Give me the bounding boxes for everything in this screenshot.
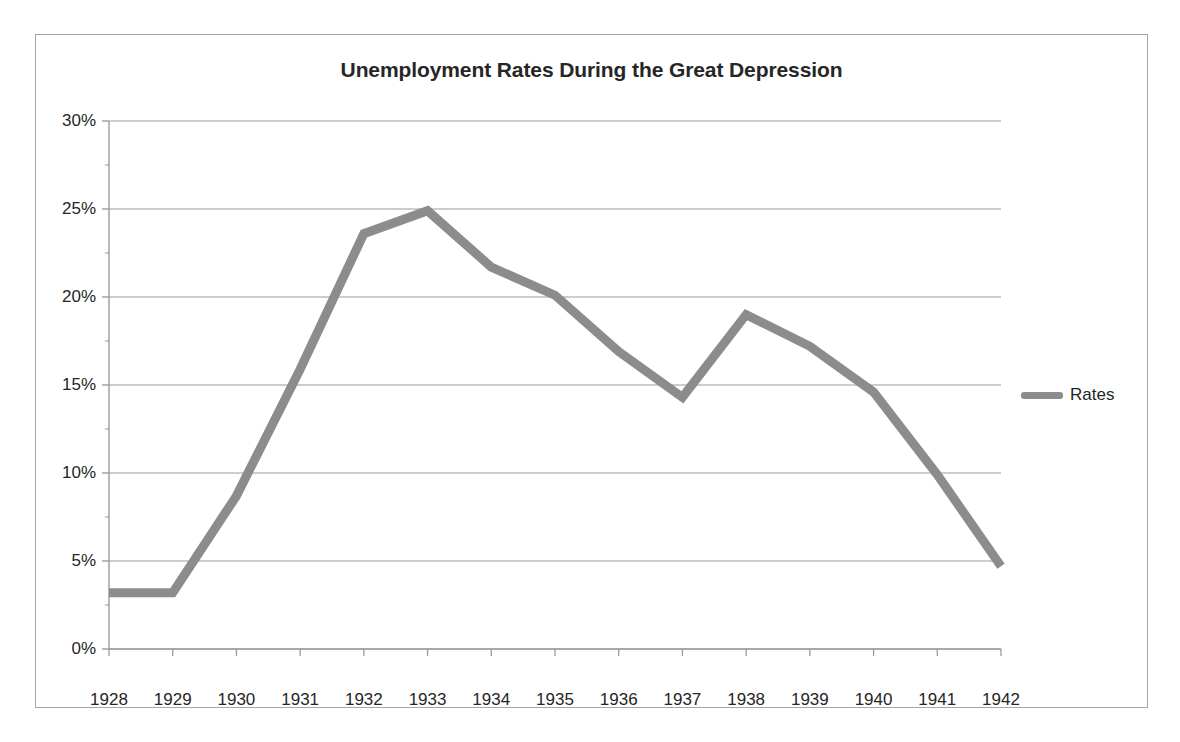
y-tick-label: 15% [62, 375, 96, 395]
x-tick-label: 1935 [536, 690, 574, 710]
series-line-rates [109, 211, 1001, 593]
data-series-group [109, 211, 1001, 593]
x-tick-label: 1939 [791, 690, 829, 710]
chart-title: Unemployment Rates During the Great Depr… [36, 58, 1147, 82]
plot-area [109, 121, 1001, 649]
y-axis-major-ticks [102, 121, 109, 649]
y-tick-label: 5% [71, 551, 96, 571]
y-axis-tick-labels: 0%5%10%15%20%25%30% [36, 121, 96, 649]
legend-label-rates: Rates [1070, 385, 1114, 405]
y-tick-label: 0% [71, 639, 96, 659]
x-axis-tick-labels: 1928192919301931193219331934193519361937… [109, 690, 1001, 724]
y-tick-label: 30% [62, 111, 96, 131]
x-tick-label: 1931 [281, 690, 319, 710]
legend-swatch-rates [1021, 392, 1063, 399]
x-tick-label: 1936 [600, 690, 638, 710]
x-tick-label: 1933 [409, 690, 447, 710]
y-tick-label: 25% [62, 199, 96, 219]
y-tick-label: 20% [62, 287, 96, 307]
x-tick-label: 1932 [345, 690, 383, 710]
x-tick-label: 1934 [472, 690, 510, 710]
line-chart-plot [109, 121, 1001, 649]
x-tick-label: 1941 [918, 690, 956, 710]
x-tick-label: 1929 [154, 690, 192, 710]
x-tick-label: 1930 [218, 690, 256, 710]
chart-frame: Unemployment Rates During the Great Depr… [35, 34, 1148, 708]
x-tick-label: 1942 [982, 690, 1020, 710]
x-axis-ticks [109, 649, 1001, 656]
x-tick-label: 1928 [90, 690, 128, 710]
x-tick-label: 1940 [855, 690, 893, 710]
legend: Rates [1021, 385, 1114, 405]
x-tick-label: 1938 [727, 690, 765, 710]
y-tick-label: 10% [62, 463, 96, 483]
x-tick-label: 1937 [664, 690, 702, 710]
